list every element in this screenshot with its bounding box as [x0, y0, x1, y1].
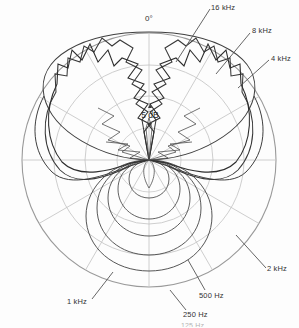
sidelobe-l2: [106, 142, 149, 160]
leader-1khz: [92, 272, 113, 299]
series-label-2khz: 2 kHz: [267, 265, 287, 273]
leader-2khz: [236, 235, 266, 268]
radial-scale-indicator: 5 dB: [133, 104, 167, 127]
radial-scale-label: 5 dB: [133, 108, 167, 123]
spoke-210: [86, 160, 150, 270]
axis-label-0-degrees: 0°: [145, 15, 153, 23]
series-label-250hz: 250 Hz: [183, 311, 208, 319]
leader-8khz: [216, 33, 250, 74]
sidelobe-r2: [149, 142, 192, 160]
polar-directivity-chart: 0° 5 dB 16 kHz 8 kHz 4 kHz 2 kHz 500 Hz …: [0, 0, 299, 328]
spoke-150: [149, 160, 213, 270]
leader-250hz: [170, 290, 186, 310]
series-label-4khz: 4 kHz: [271, 55, 291, 63]
scale-arrow-down-icon: [148, 123, 152, 127]
polar-plot-svg: [0, 0, 299, 328]
spoke-120: [149, 160, 259, 224]
series-label-125hz: 125 Hz: [181, 322, 204, 327]
series-label-1khz: 1 kHz: [67, 298, 87, 306]
series-label-500hz: 500 Hz: [199, 292, 224, 300]
spoke-240: [39, 160, 149, 224]
series-label-16khz: 16 kHz: [211, 4, 235, 12]
series-label-8khz: 8 kHz: [252, 27, 272, 35]
